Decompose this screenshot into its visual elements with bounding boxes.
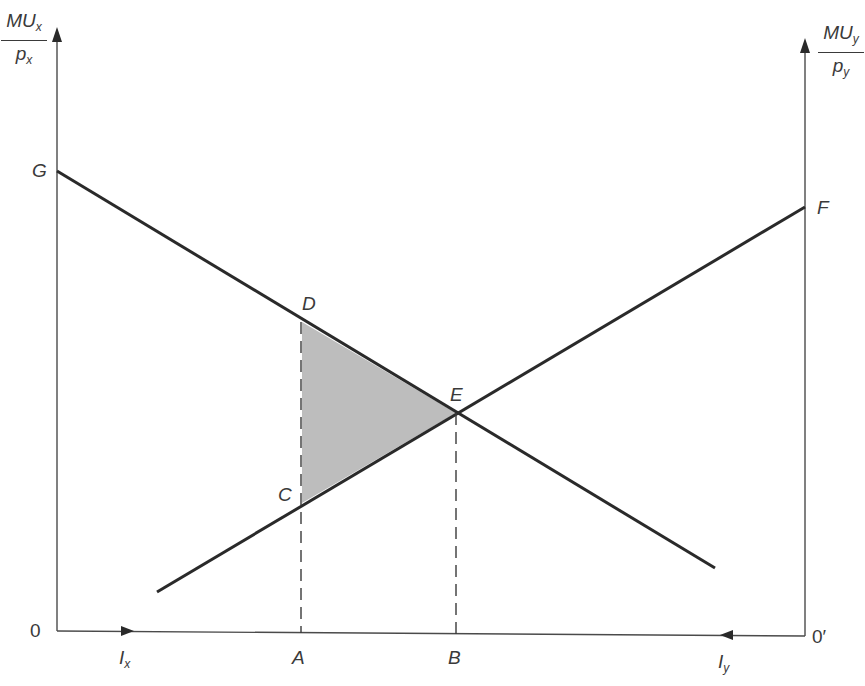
right-fraction-bar	[818, 52, 864, 53]
income-x-label: Ix	[119, 648, 130, 670]
right-axis-label: MUy py	[818, 22, 864, 83]
left-fraction-bar	[1, 40, 47, 41]
point-f-label: F	[817, 198, 829, 217]
right-label-numerator-sub: y	[853, 32, 859, 46]
left-label-denominator: p	[16, 43, 27, 64]
point-a-label: A	[292, 648, 305, 667]
point-d-label: D	[302, 294, 316, 313]
origin-right-label: 0′	[812, 627, 826, 646]
iy-arrow-icon	[720, 630, 733, 640]
origin-left-label: 0	[30, 621, 41, 640]
bottom-axis	[57, 631, 805, 636]
right-label-denominator: p	[833, 55, 844, 76]
diagram-canvas	[0, 0, 865, 686]
left-label-numerator: MU	[6, 10, 36, 31]
shaded-triangle-dec	[302, 322, 456, 503]
income-y-label: Iy	[718, 652, 729, 674]
mu-y-line	[157, 207, 805, 592]
point-e-label: E	[450, 385, 463, 404]
point-g-label: G	[32, 161, 47, 180]
left-axis-label: MUx px	[1, 10, 47, 71]
ix-arrow-icon	[121, 626, 134, 636]
point-b-label: B	[448, 648, 461, 667]
left-axis-arrow-icon	[52, 27, 62, 42]
left-label-denominator-sub: x	[26, 53, 32, 67]
point-c-label: C	[278, 485, 292, 504]
mu-x-line	[57, 171, 715, 568]
income-x-sub: x	[124, 657, 130, 671]
left-label-numerator-sub: x	[36, 20, 42, 34]
income-y-sub: y	[723, 661, 729, 675]
right-label-numerator: MU	[823, 22, 853, 43]
right-axis-arrow-icon	[800, 38, 810, 53]
right-label-denominator-sub: y	[843, 65, 849, 79]
